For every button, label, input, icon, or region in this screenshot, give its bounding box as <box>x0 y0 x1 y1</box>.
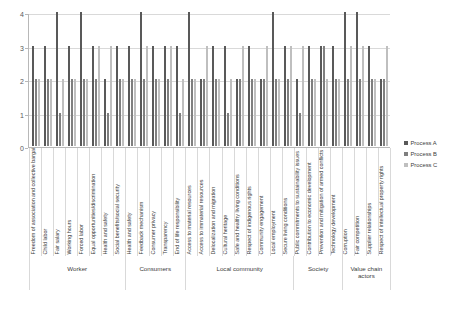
x-label-text: Fair salary <box>54 229 59 254</box>
y-tick-mark <box>25 81 28 82</box>
x-label-cell: Corruption <box>343 148 355 256</box>
bar-group <box>270 14 282 146</box>
x-label-cell: Delocalization and migration <box>210 148 222 256</box>
bar-c <box>290 46 293 147</box>
x-label-text: Feedback mechanism <box>138 201 143 254</box>
bar-c <box>158 79 161 146</box>
bar-group <box>246 14 258 146</box>
x-label-text: Secure living conditions <box>283 197 288 254</box>
group-label: Society <box>308 265 328 272</box>
bar-c <box>98 46 101 147</box>
x-label-cell: Feedback mechanism <box>138 148 150 256</box>
x-label-text: Respect of indigenous rights <box>247 186 252 254</box>
x-label-cell: Forced labor <box>78 148 90 256</box>
x-label-text: Prevention and mitigation of armed confl… <box>319 149 324 254</box>
x-label-cell: Freedom of association and collective ba… <box>29 148 42 256</box>
bar-group <box>162 14 174 146</box>
x-label-cell: Social benefits/social security <box>114 148 126 256</box>
bar-c <box>314 79 317 146</box>
x-axis-category-labels: Freedom of association and collective ba… <box>29 148 391 256</box>
bar-group <box>66 14 78 146</box>
x-label-cell: Health and safety <box>126 148 138 256</box>
bar-group <box>198 14 210 146</box>
group-label: Consumers <box>139 265 171 272</box>
x-label-cell: Child labor <box>42 148 54 256</box>
bar-group <box>378 14 390 146</box>
group-cell: Society <box>294 256 342 290</box>
x-label-text: Public commitments to sustainability iss… <box>295 151 300 254</box>
plot-wrapper: 01234 <box>28 14 390 148</box>
group-label: Worker <box>67 265 87 272</box>
x-label-text: Health and safety <box>102 212 107 254</box>
bar-group <box>186 14 198 146</box>
bar-c <box>278 79 281 146</box>
legend-label: Process A <box>411 140 437 146</box>
chart-legend: Process AProcess BProcess C <box>404 140 454 168</box>
x-label-text: Respect of intellectual property rights <box>379 165 384 254</box>
x-label-text: Consumer privacy <box>150 211 155 254</box>
legend-item-a[interactable]: Process A <box>404 140 454 146</box>
y-tick-label: 1 <box>20 111 24 118</box>
bar-c <box>266 46 269 147</box>
y-tick-label: 0 <box>20 145 24 152</box>
x-label-cell: Supplier relationships <box>367 148 379 256</box>
y-tick-mark <box>25 115 28 116</box>
group-cell: Local community <box>186 256 295 290</box>
x-label-cell: Health and safety <box>102 148 114 256</box>
x-label-text: Transparency <box>162 221 167 254</box>
x-label-text: End of life responsibility <box>174 197 179 254</box>
x-label-cell: Working hours <box>66 148 78 256</box>
y-tick-mark <box>25 48 28 49</box>
bar-group <box>222 14 234 146</box>
bar-group <box>90 14 102 146</box>
x-label-cell: End of life responsibility <box>174 148 186 256</box>
bar-c <box>350 46 353 147</box>
x-label-text: Community engagement <box>259 195 264 254</box>
x-label-cell: Safe and healthy living conditions <box>235 148 247 256</box>
bar-c <box>218 79 221 146</box>
legend-item-b[interactable]: Process B <box>404 151 454 157</box>
bar-c <box>302 46 305 147</box>
bar-group <box>102 14 114 146</box>
group-cell: Value chain actors <box>343 256 391 290</box>
bar-c <box>230 79 233 146</box>
x-label-text: Social benefits/social security <box>114 184 119 254</box>
x-label-cell: Respect of intellectual property rights <box>379 148 391 256</box>
x-label-cell: Access to immaterial resources <box>198 148 210 256</box>
y-tick-label: 2 <box>20 78 24 85</box>
x-label-cell: Consumer privacy <box>150 148 162 256</box>
x-label-text: Supplier relationships <box>367 202 372 254</box>
bar-group <box>174 14 186 146</box>
bar-group <box>354 14 366 146</box>
bar-c <box>206 46 209 147</box>
bar-c <box>170 46 173 147</box>
x-label-text: Access to material resources <box>187 185 192 254</box>
bar-c <box>242 46 245 147</box>
x-label-cell: Prevention and mitigation of armed confl… <box>319 148 331 256</box>
x-label-text: Forced labor <box>78 224 83 254</box>
x-label-cell: Access to material resources <box>186 148 198 256</box>
legend-swatch-icon <box>404 152 408 156</box>
x-label-cell: Transparency <box>162 148 174 256</box>
bar-group <box>282 14 294 146</box>
x-label-text: Fair competition <box>355 216 360 254</box>
bar-c <box>122 79 125 146</box>
bar-c <box>74 79 77 146</box>
bar-c <box>86 79 89 146</box>
group-cell: Worker <box>29 256 126 290</box>
plot-area <box>28 14 390 148</box>
bars-layer <box>30 14 390 146</box>
x-label-cell: Community engagement <box>259 148 271 256</box>
x-label-cell: Cultural heritage <box>223 148 235 256</box>
bar-c <box>50 79 53 146</box>
bar-c <box>134 79 137 146</box>
bar-chart: 01234 Freedom of association and collect… <box>0 0 455 319</box>
legend-item-c[interactable]: Process C <box>404 162 454 168</box>
y-tick-label: 4 <box>20 11 24 18</box>
x-label-text: Cultural heritage <box>223 214 228 254</box>
bar-group <box>210 14 222 146</box>
bar-group <box>78 14 90 146</box>
legend-label: Process B <box>411 151 437 157</box>
bar-c <box>62 79 65 146</box>
y-tick-mark <box>25 148 28 149</box>
